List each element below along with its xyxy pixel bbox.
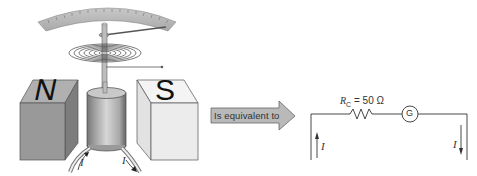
- resistor-symbol: [350, 109, 372, 119]
- meter-pointer: [99, 27, 166, 37]
- south-pole-label: S: [155, 73, 175, 107]
- circuit-current-right-label: I: [453, 138, 457, 150]
- current-out-label: I: [122, 154, 126, 166]
- galvanometer-figure: N S I I Is equivalent to RC = 50 Ω G I I: [0, 0, 477, 176]
- moving-coil: [87, 82, 126, 151]
- equivalence-arrow-label: Is equivalent to: [214, 110, 280, 121]
- equivalent-circuit: [311, 106, 467, 160]
- hair-spring: [69, 44, 163, 68]
- galvanometer-label: G: [406, 108, 413, 118]
- resistor-value: = 50 Ω: [354, 95, 384, 106]
- resistor-label: RC = 50 Ω: [340, 95, 384, 108]
- circuit-current-left-label: I: [321, 140, 325, 152]
- current-in-label: I: [80, 156, 84, 168]
- resistor-subscript: C: [346, 101, 351, 108]
